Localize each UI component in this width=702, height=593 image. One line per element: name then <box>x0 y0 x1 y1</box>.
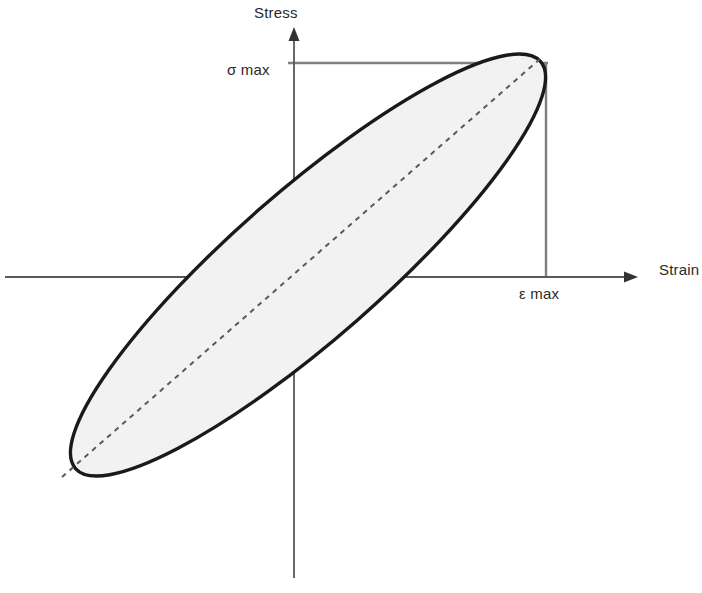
stress-strain-hysteresis-figure: Stress Strain σ max ε max <box>0 0 702 593</box>
hysteresis-loop-ellipse <box>27 6 589 524</box>
y-axis-label-stress: Stress <box>254 4 298 21</box>
x-axis-label-strain: Strain <box>659 261 699 278</box>
plot-canvas <box>0 0 702 593</box>
epsilon-max-label: ε max <box>519 285 559 302</box>
y-axis-arrow-icon <box>289 27 300 41</box>
x-axis-arrow-icon <box>624 272 638 283</box>
sigma-max-label: σ max <box>227 61 270 78</box>
